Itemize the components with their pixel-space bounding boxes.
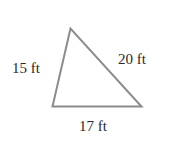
side-label-right: 20 ft xyxy=(118,51,147,67)
triangle-shape xyxy=(53,29,142,107)
side-label-left: 15 ft xyxy=(12,60,41,76)
triangle-diagram: 15 ft 20 ft 17 ft xyxy=(0,0,183,158)
side-label-bottom: 17 ft xyxy=(79,118,108,134)
